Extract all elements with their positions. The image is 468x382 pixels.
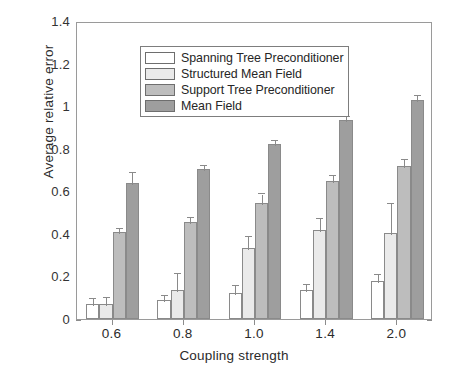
legend-swatch-spanning-tree-preconditioner [145,52,175,64]
error-bar-stem [119,229,120,234]
error-bar-stem [177,274,178,292]
legend-swatch-mean-field [145,100,175,112]
bar-1.0-series-1 [242,248,255,319]
bar-1.0-series-0 [229,293,242,319]
error-bar-cap [187,217,194,218]
error-bar-stem [204,166,205,171]
bar-0.8-series-1 [171,290,184,319]
bar-0.6-series-3 [126,183,139,319]
bar-2.0-series-2 [397,166,410,319]
x-tick-mark [183,320,184,325]
error-bar-cap [129,172,136,173]
legend-item-2: Support Tree Preconditioner [145,82,344,98]
y-tick-mark-right [427,320,432,321]
chart-legend: Spanning Tree Preconditioner Structured … [140,46,349,117]
error-bar-stem [378,275,379,282]
error-bar-cap [374,274,381,275]
error-bar-stem [106,298,107,306]
x-axis-label: Coupling strength [0,348,468,363]
error-bar-cap [161,295,168,296]
x-tick-label: 2.0 [371,326,421,341]
error-bar-stem [248,237,249,250]
y-tick-mark [76,320,81,321]
legend-label-0: Spanning Tree Preconditioner [181,51,344,65]
bar-2.0-series-1 [384,233,397,319]
error-bar-stem [333,176,334,183]
error-bar-stem [190,218,191,224]
bar-0.6-series-0 [86,304,99,319]
error-bar-stem [164,296,165,302]
x-tick-label: 1.0 [229,326,279,341]
bar-1.0-series-2 [255,203,268,319]
error-bar-stem [417,96,418,101]
x-tick-mark [112,320,113,325]
plot-area: Spanning Tree Preconditioner Structured … [76,22,432,320]
y-tick-label: 1 [30,99,70,114]
bar-2.0-series-3 [411,100,424,319]
legend-item-1: Structured Mean Field [145,66,344,82]
y-tick-label: 0.2 [30,269,70,284]
legend-swatch-support-tree-preconditioner [145,84,175,96]
error-bar-cap [174,273,181,274]
y-tick-label: 1.2 [30,57,70,72]
legend-label-3: Mean Field [181,99,242,113]
error-bar-cap [271,140,278,141]
error-bar-stem [320,219,321,232]
x-tick-mark [254,320,255,325]
bar-1.4-series-1 [313,230,326,319]
bar-1.4-series-2 [326,181,339,319]
error-bar-cap [200,165,207,166]
x-tick-label: 1.4 [300,326,350,341]
y-tick-label: 0.8 [30,142,70,157]
legend-item-3: Mean Field [145,98,344,114]
error-bar-stem [262,195,263,206]
error-bar-stem [404,160,405,168]
bar-0.8-series-3 [197,169,210,319]
error-bar-cap [316,218,323,219]
x-tick-label: 0.8 [158,326,208,341]
error-bar-stem [391,204,392,235]
error-bar-stem [235,286,236,295]
bar-2.0-series-0 [371,281,384,319]
y-tick-label: 0.4 [30,227,70,242]
x-tick-mark [396,320,397,325]
error-bar-cap [303,284,310,285]
error-bar-cap [258,193,265,194]
error-bar-cap [245,236,252,237]
bar-0.8-series-0 [157,300,170,319]
bar-1.4-series-3 [339,120,352,319]
x-tick-label: 0.6 [87,326,137,341]
error-bar-cap [329,175,336,176]
legend-label-1: Structured Mean Field [181,67,302,81]
bar-0.6-series-1 [99,304,112,319]
error-bar-cap [232,285,239,286]
legend-item-0: Spanning Tree Preconditioner [145,50,344,66]
error-bar-cap [401,159,408,160]
y-tick-label: 1.4 [30,14,70,29]
error-bar-stem [93,299,94,306]
error-bar-stem [306,285,307,292]
y-tick-label: 0 [30,312,70,327]
error-bar-stem [275,141,276,147]
legend-swatch-structured-mean-field [145,68,175,80]
legend-label-2: Support Tree Preconditioner [181,83,335,97]
bar-chart-figure: Average relative error 00.20.40.60.811.2… [0,0,468,382]
error-bar-cap [414,95,421,96]
bar-1.4-series-0 [300,290,313,319]
error-bar-cap [89,298,96,299]
bar-0.8-series-2 [184,222,197,319]
bar-0.6-series-2 [113,232,126,319]
error-bar-cap [103,297,110,298]
error-bar-cap [116,228,123,229]
error-bar-stem [132,173,133,185]
y-tick-label: 0.6 [30,184,70,199]
bar-1.0-series-3 [268,144,281,319]
error-bar-stem [346,117,347,122]
x-tick-mark [325,320,326,325]
error-bar-cap [387,203,394,204]
